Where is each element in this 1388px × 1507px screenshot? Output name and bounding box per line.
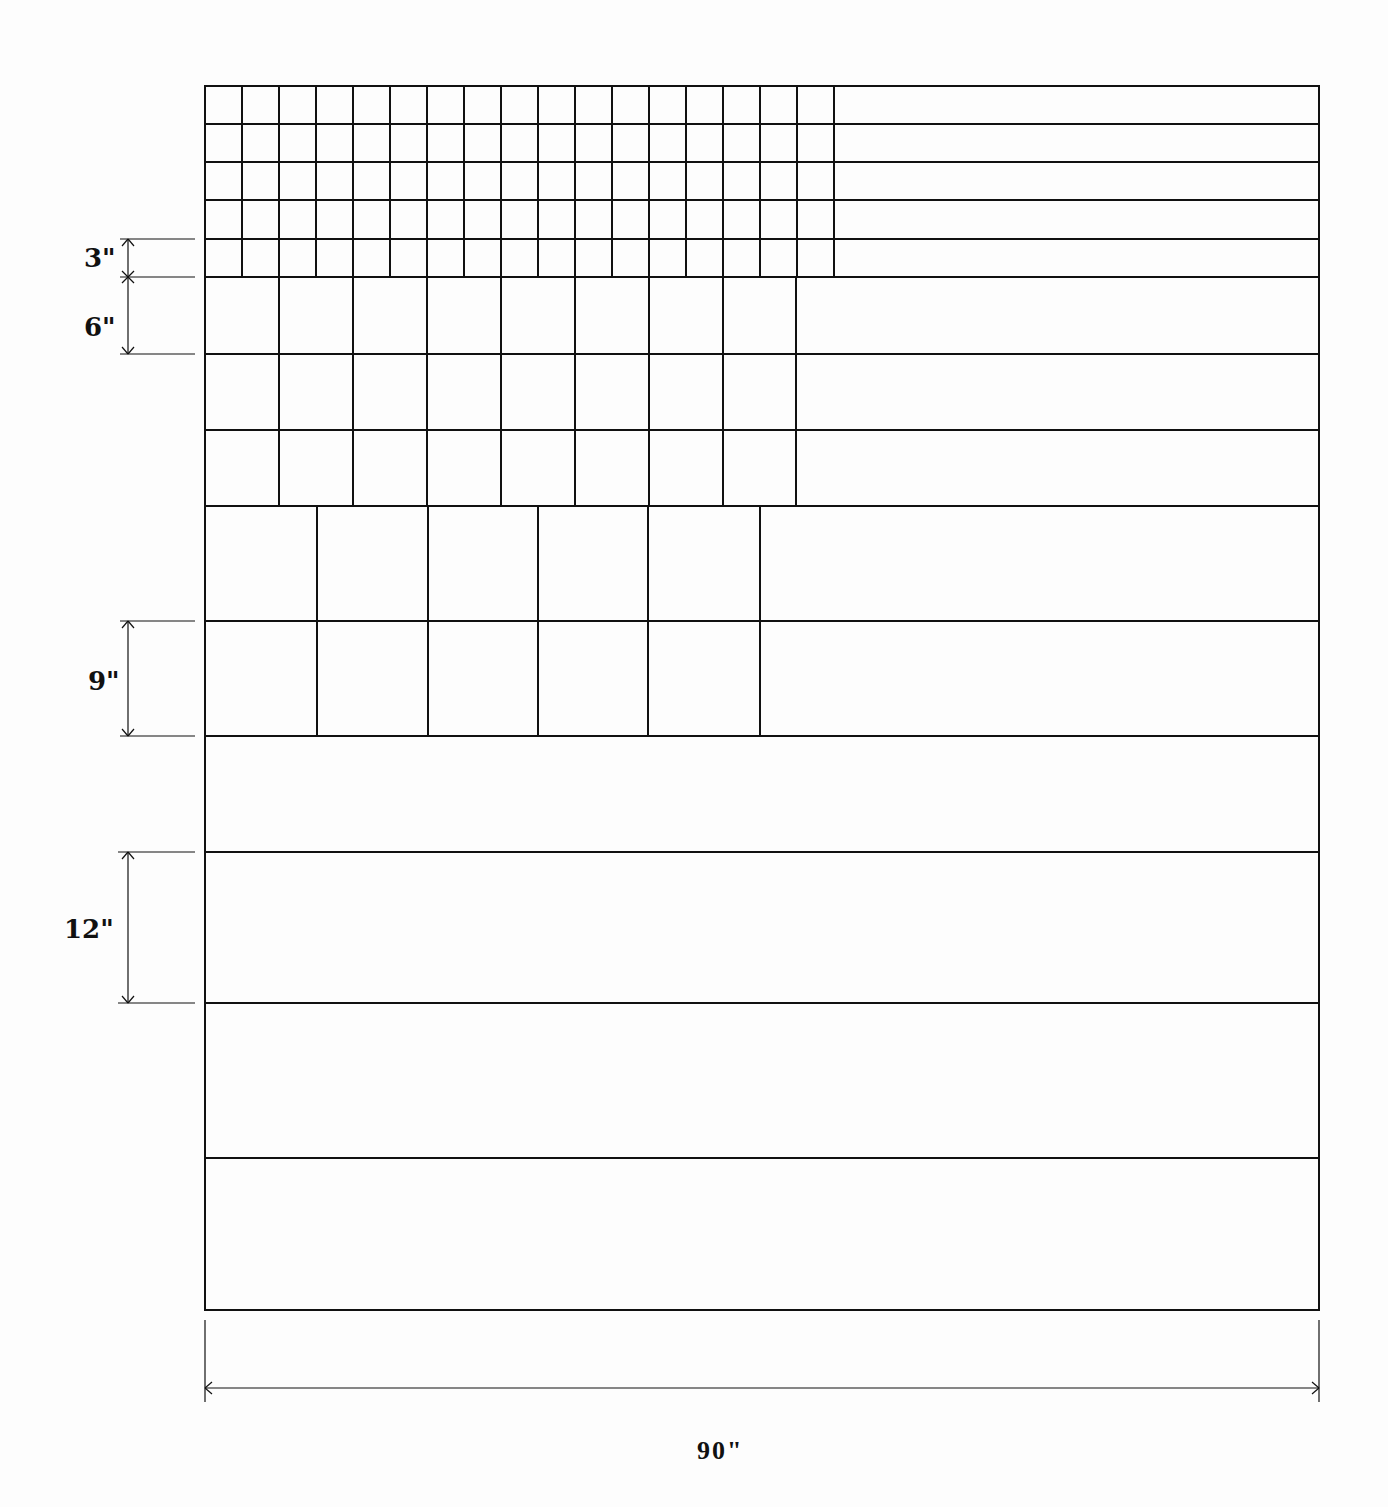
label-12-inch: 12" [64,916,114,942]
arrow [122,347,128,354]
outer-frame [205,86,1319,1310]
gradient-grid-diagram: 3" 6" 9" 12" 90" [0,0,1388,1507]
arrow [205,1382,212,1388]
arrow [122,729,128,736]
arrow [128,996,134,1003]
arrow [128,852,134,859]
arrow [1312,1382,1319,1388]
label-3-inch: 3" [84,245,116,271]
arrow [128,239,134,246]
arrow [128,621,134,628]
arrow [122,621,128,628]
arrow [122,239,128,246]
arrow [122,852,128,859]
arrow [205,1388,212,1394]
grid-drawing [0,0,1388,1507]
arrow [128,729,134,736]
arrow [128,347,134,354]
label-9-inch: 9" [88,668,120,694]
arrow [122,996,128,1003]
arrow [1312,1388,1319,1394]
label-6-inch: 6" [84,314,116,340]
label-90-inch: 90" [697,1438,743,1464]
